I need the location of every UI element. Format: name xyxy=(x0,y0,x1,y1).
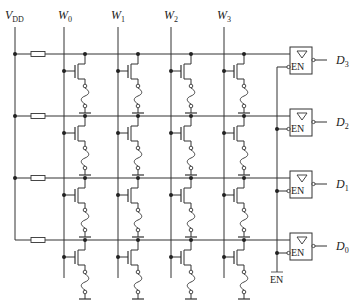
word-line-label-w1: W1 xyxy=(111,8,125,24)
buffer-en-label-d3: EN xyxy=(291,61,304,72)
d2-sub: 2 xyxy=(345,122,349,131)
output-label-d1: D1 xyxy=(336,177,349,193)
buffer-en-label-d0: EN xyxy=(291,247,304,258)
w2-main: W xyxy=(164,8,174,22)
output-label-d0: D0 xyxy=(336,239,349,255)
d0-main: D xyxy=(336,239,345,253)
buffer-en-label-d1: EN xyxy=(291,185,304,196)
w0-main: W xyxy=(58,8,68,22)
word-line-label-w2: W2 xyxy=(164,8,178,24)
buffer-en-label-d2: EN xyxy=(291,123,304,134)
output-label-d3: D3 xyxy=(336,53,349,69)
pull-up-resistors xyxy=(31,52,45,243)
tristate-buffers xyxy=(290,47,312,260)
d1-main: D xyxy=(336,177,345,191)
vdd-label: VDD xyxy=(5,8,24,24)
d0-sub: 0 xyxy=(345,246,349,255)
output-lines xyxy=(315,60,327,246)
output-label-d2: D2 xyxy=(336,115,349,131)
bit-lines xyxy=(15,54,290,240)
w0-sub: 0 xyxy=(68,15,72,24)
word-line-label-w0: W0 xyxy=(58,8,72,24)
vdd-label-sub: DD xyxy=(12,15,24,24)
w1-sub: 1 xyxy=(121,15,125,24)
d1-sub: 1 xyxy=(345,184,349,193)
junction-dots xyxy=(62,52,246,259)
d2-main: D xyxy=(336,115,345,129)
w2-sub: 2 xyxy=(174,15,178,24)
d3-main: D xyxy=(336,53,345,67)
gate-connections xyxy=(64,71,234,257)
w1-main: W xyxy=(111,8,121,22)
word-line-label-w3: W3 xyxy=(217,8,231,24)
d3-sub: 3 xyxy=(345,60,349,69)
enable-input-label: EN xyxy=(270,274,283,285)
w3-main: W xyxy=(217,8,227,22)
w3-sub: 3 xyxy=(227,15,231,24)
